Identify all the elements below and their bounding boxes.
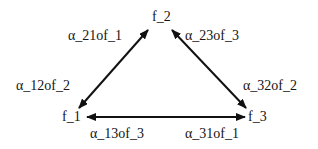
edge-label-alpha-32: α_32of_2 [243, 79, 297, 93]
node-f1: f_1 [62, 110, 81, 124]
triangle-diagram: f_2 f_1 f_3 α_21of_1 α_23of_3 α_12of_2 α… [0, 0, 318, 149]
edge-label-alpha-31: α_31of_1 [185, 127, 239, 141]
node-f3: f_3 [248, 110, 267, 124]
edge-label-alpha-21: α_21of_1 [68, 29, 122, 43]
edge-label-alpha-13: α_13of_3 [90, 127, 144, 141]
edge-label-alpha-12: α_12of_2 [16, 79, 70, 93]
edge-label-alpha-23: α_23of_3 [185, 29, 239, 43]
node-f2: f_2 [152, 10, 171, 24]
